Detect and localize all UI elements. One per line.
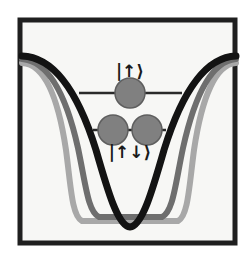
upper-level-label: |↑⟩	[116, 61, 144, 81]
diagram-canvas: |↑⟩ |↑↓⟩	[0, 0, 252, 261]
particle-up-lower	[98, 115, 128, 145]
potential-well-diagram: |↑⟩ |↑↓⟩	[0, 0, 252, 261]
lower-level-label: |↑↓⟩	[109, 142, 151, 162]
particle-down-lower	[132, 115, 162, 145]
particle-up	[115, 78, 145, 108]
